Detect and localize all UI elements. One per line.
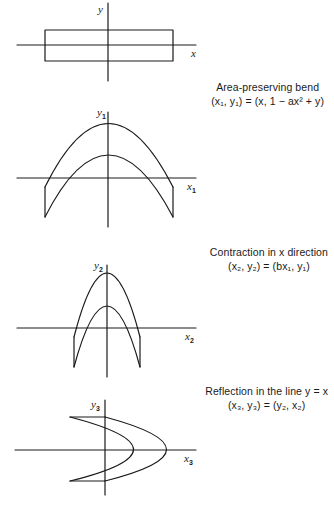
label-x1: x1 [186, 180, 196, 194]
label-x2: x2 [184, 330, 194, 344]
panel-contraction [17, 265, 196, 377]
panel-bend [17, 112, 196, 227]
label-y2: y2 [93, 259, 103, 273]
panel-reflection [15, 400, 196, 495]
label-y3: y3 [90, 398, 100, 412]
caption-contraction-formula: (x₂, y₂) = (bx₁, y₁) [210, 259, 328, 273]
caption-contraction: Contraction in x direction (x₂, y₂) = (b… [210, 245, 328, 273]
reflection-outer-curve [105, 417, 167, 481]
caption-bend-title: Area-preserving bend [211, 80, 324, 94]
panel-original [17, 3, 196, 81]
caption-contraction-title: Contraction in x direction [210, 245, 328, 259]
bend-inner-curve [45, 155, 173, 217]
caption-reflection: Reflection in the line y = x (x₃, y₃) = … [205, 384, 328, 412]
caption-reflection-title: Reflection in the line y = x [205, 384, 328, 398]
caption-bend: Area-preserving bend (x₁, y₁) = (x, 1 − … [211, 80, 324, 108]
label-y: y [97, 3, 103, 15]
reflection-inner-curve [70, 417, 134, 481]
caption-bend-formula: (x₁, y₁) = (x, 1 − ax² + y) [211, 94, 324, 108]
label-x3: x3 [183, 452, 193, 466]
caption-reflection-formula: (x₃, y₃) = (y₂, x₂) [205, 398, 328, 412]
label-y1: y1 [96, 106, 106, 120]
label-x: x [190, 47, 196, 59]
